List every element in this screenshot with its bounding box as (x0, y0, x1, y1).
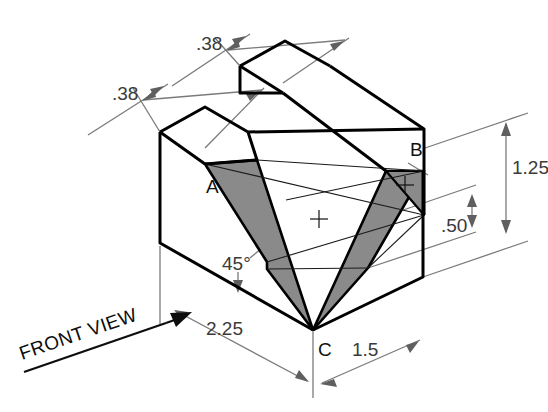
front-view-indicator: FRONT VIEW (16, 304, 192, 372)
arrow-height-top (501, 122, 511, 136)
edge-front-top-left (160, 132, 205, 164)
ext-line-height-top (425, 113, 528, 148)
ext-line-height-bottom (423, 241, 528, 277)
ext-line-front-rail-right (205, 88, 264, 148)
construction-top-edge (257, 160, 424, 171)
edge-top-right-long (248, 129, 424, 132)
dim-rail-width-front: .38 (112, 83, 138, 104)
dim-width: 1.5 (352, 339, 378, 360)
edge-front-rail-inner (205, 132, 257, 164)
label-point-c: C (318, 339, 332, 360)
dim-notch-angle: 45° (222, 253, 251, 274)
isometric-v-block-drawing: FRONT VIEW .38 .38 1.25 .50 2.25 1.5 45°… (0, 0, 548, 412)
label-point-a: A (206, 176, 219, 197)
technical-drawing-page: FRONT VIEW .38 .38 1.25 .50 2.25 1.5 45°… (0, 0, 548, 412)
shaded-notch-faces-group (205, 160, 424, 330)
dim-notch-depth: .50 (441, 215, 467, 236)
edge-back-rail (240, 66, 283, 93)
edge-front-rail-top (160, 107, 248, 132)
arrow-length-right (295, 370, 309, 382)
construction-notch-diagonal-2 (267, 215, 424, 262)
dim-height-total: 1.25 (512, 157, 548, 178)
arrow-notch-top (467, 194, 477, 207)
front-view-arrow-head (170, 312, 192, 327)
dimension-arrowheads-group (142, 36, 511, 387)
arrow-height-bottom (501, 220, 511, 234)
front-view-label: FRONT VIEW (16, 304, 139, 364)
dim-length: 2.25 (206, 318, 243, 339)
label-point-b: B (410, 139, 423, 160)
arrow-notch-bottom (467, 215, 477, 228)
dim-rail-width-back: .38 (196, 33, 222, 54)
